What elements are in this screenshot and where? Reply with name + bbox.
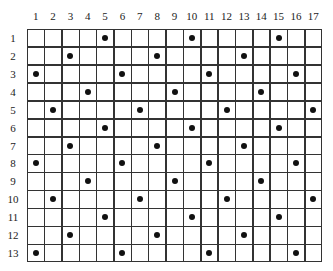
column-label: 3 [62,10,79,22]
grid-dot [102,125,108,131]
grid-dot [33,250,39,256]
column-label: 14 [253,10,270,22]
grid-horizontal-line [28,100,321,102]
grid-dot [154,53,160,59]
column-label: 16 [287,10,304,22]
grid-horizontal-line [28,172,321,174]
column-label: 5 [96,10,113,22]
grid-dot [189,35,195,41]
column-label: 6 [114,10,131,22]
grid-dot [293,71,299,77]
grid-dot [276,214,282,220]
column-label: 12 [218,10,235,22]
grid-dot [258,178,264,184]
grid-horizontal-line [28,82,321,84]
grid-horizontal-line [28,208,321,210]
grid-horizontal-line [28,244,321,246]
grid-dot [310,196,316,202]
grid-dot [172,89,178,95]
row-label: 11 [2,211,24,223]
grid-dot [119,160,125,166]
grid-horizontal-line [28,190,321,192]
grid-dot [241,53,247,59]
column-label: 1 [27,10,44,22]
row-label: 12 [2,229,24,241]
grid-dot [276,35,282,41]
column-label: 9 [166,10,183,22]
grid-dot [67,143,73,149]
column-label: 17 [305,10,322,22]
grid-dot [293,160,299,166]
grid-dot [33,160,39,166]
grid-dot [224,107,230,113]
grid-horizontal-line [28,118,321,120]
row-label: 13 [2,247,24,259]
grid-dot [241,232,247,238]
grid-dot [50,196,56,202]
grid-dot [241,143,247,149]
column-label: 15 [270,10,287,22]
column-label: 7 [131,10,148,22]
grid-dot [206,71,212,77]
grid-dot [67,53,73,59]
grid-dot [33,71,39,77]
grid-dot [189,214,195,220]
grid-horizontal-line [28,46,321,48]
grid-horizontal-line [28,64,321,66]
row-label: 1 [2,32,24,44]
grid-dot [154,143,160,149]
grid-dot [206,250,212,256]
grid-dot [50,107,56,113]
grid-horizontal-line [28,226,321,228]
grid-dot [276,125,282,131]
grid-horizontal-line [28,154,321,156]
column-label: 8 [148,10,165,22]
grid-dot [85,178,91,184]
grid-dot [172,178,178,184]
row-label: 4 [2,86,24,98]
grid-dot [102,35,108,41]
column-label: 2 [44,10,61,22]
row-label: 8 [2,157,24,169]
row-label: 10 [2,193,24,205]
dot-grid [27,29,322,262]
grid-dot [224,196,230,202]
row-label: 5 [2,104,24,116]
grid-dot [293,250,299,256]
column-label: 13 [235,10,252,22]
grid-dot [189,125,195,131]
grid-dot [119,71,125,77]
column-label: 11 [201,10,218,22]
grid-dot [85,89,91,95]
grid-dot [67,232,73,238]
column-label: 4 [79,10,96,22]
grid-dot [137,107,143,113]
row-label: 3 [2,68,24,80]
grid-horizontal-line [28,136,321,138]
grid-dot [154,232,160,238]
grid-dot [310,107,316,113]
grid-dot [119,250,125,256]
row-label: 2 [2,50,24,62]
row-label: 7 [2,140,24,152]
grid-dot [258,89,264,95]
row-label: 6 [2,122,24,134]
grid-dot [137,196,143,202]
grid-dot [102,214,108,220]
column-label: 10 [183,10,200,22]
grid-dot [206,160,212,166]
row-label: 9 [2,175,24,187]
